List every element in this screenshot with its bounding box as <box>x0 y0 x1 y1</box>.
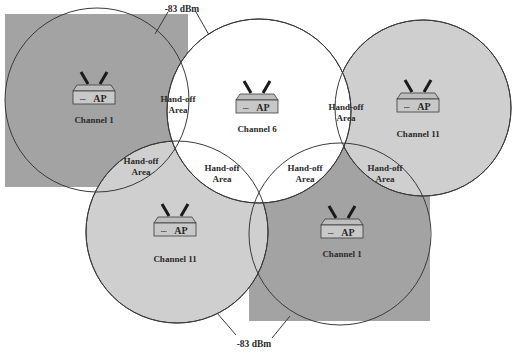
signal-leader-line <box>196 12 209 35</box>
svg-text:▪▪▪▪: ▪▪▪▪ <box>243 106 249 111</box>
svg-text:▪▪▪▪: ▪▪▪▪ <box>328 231 334 236</box>
svg-text:AP: AP <box>341 227 354 238</box>
svg-text:Area: Area <box>337 113 356 123</box>
svg-text:Area: Area <box>132 167 151 177</box>
channel-layout-diagram: -83 dBm -83 dBm ▪▪▪▪ AP Channel 1 ▪▪▪▪ A… <box>0 0 519 356</box>
signal-strength-label-top: -83 dBm <box>165 4 200 14</box>
svg-text:AP: AP <box>93 93 106 104</box>
svg-text:Area: Area <box>376 174 395 184</box>
svg-text:▪▪▪▪: ▪▪▪▪ <box>80 97 86 102</box>
svg-text:Hand-off: Hand-off <box>287 163 323 173</box>
svg-text:AP: AP <box>256 102 269 113</box>
channel-label: Channel 11 <box>153 254 197 264</box>
channel-label: Channel 11 <box>396 129 440 139</box>
svg-text:Hand-off: Hand-off <box>123 156 159 166</box>
svg-text:Area: Area <box>213 174 232 184</box>
signal-strength-label-bottom: -83 dBm <box>237 339 272 349</box>
svg-text:Hand-off: Hand-off <box>160 94 196 104</box>
svg-text:AP: AP <box>417 101 430 112</box>
svg-text:Hand-off: Hand-off <box>328 102 364 112</box>
channel-label: Channel 1 <box>74 115 114 125</box>
svg-text:Area: Area <box>169 105 188 115</box>
svg-text:▪▪▪▪: ▪▪▪▪ <box>404 105 410 110</box>
svg-text:Hand-off: Hand-off <box>367 163 403 173</box>
svg-text:▪▪▪▪: ▪▪▪▪ <box>161 229 167 234</box>
channel-label: Channel 6 <box>237 124 277 134</box>
svg-text:AP: AP <box>174 225 187 236</box>
channel-label: Channel 1 <box>322 249 362 259</box>
signal-leader-line <box>217 313 236 335</box>
svg-text:Hand-off: Hand-off <box>204 163 240 173</box>
svg-text:Area: Area <box>296 174 315 184</box>
